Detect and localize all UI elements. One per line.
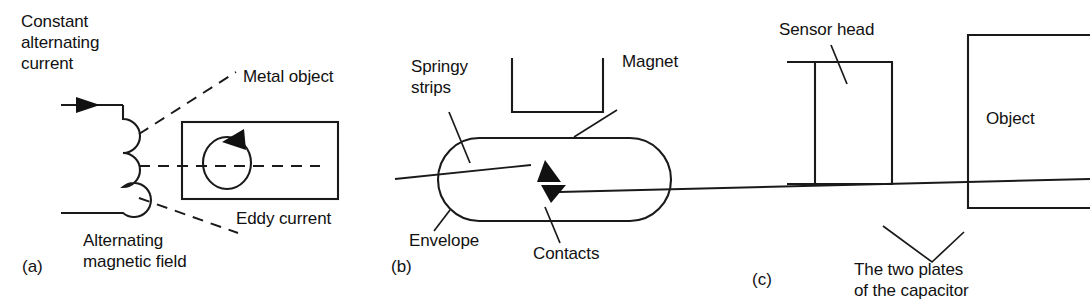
label-eddy-current: Eddy current — [236, 208, 331, 229]
contacts-leader — [545, 207, 560, 243]
label-metal-object: Metal object — [243, 66, 333, 87]
magnet-leader — [574, 110, 617, 137]
coil — [61, 105, 151, 217]
eddy-current-arrow-icon — [222, 129, 246, 150]
panel-id-b: (b) — [391, 257, 412, 277]
panel-c-graphics — [787, 35, 1090, 262]
label-constant-alternating-current-line1: Constant — [21, 11, 88, 32]
sensor-diagram-figure: Constant alternating current Metal objec… — [0, 0, 1090, 307]
panel-id-c: (c) — [752, 270, 772, 290]
label-alternating-magnetic-field-line1: Alternating — [83, 230, 163, 251]
envelope-leader — [434, 210, 450, 231]
panel-b-graphics — [395, 58, 1090, 221]
label-sensor-head: Sensor head — [779, 19, 874, 40]
field-line-upper — [139, 72, 236, 134]
panel-id-a: (a) — [22, 257, 43, 277]
label-object: Object — [986, 108, 1035, 129]
label-alternating-magnetic-field-line2: magnetic field — [83, 251, 187, 272]
label-constant-alternating-current-line2: alternating — [21, 32, 99, 53]
label-envelope: Envelope — [409, 230, 479, 251]
label-constant-alternating-current-line3: current — [21, 53, 73, 74]
label-capacitor-plates-line1: The two plates — [854, 259, 963, 280]
sensor-head-rectangle — [787, 62, 892, 184]
springy-strips-leader — [449, 112, 470, 163]
field-line-lower — [139, 198, 238, 233]
label-springy-strips-line1: Springy — [411, 56, 468, 77]
leader-lines — [434, 45, 847, 243]
springy-strip-lower — [559, 179, 1090, 192]
label-magnet: Magnet — [622, 51, 678, 72]
springy-strip-upper — [395, 165, 531, 179]
sensor-head-leader — [831, 45, 847, 84]
magnet-u-shape — [512, 58, 603, 112]
current-arrow-icon — [76, 97, 100, 113]
label-capacitor-plates-line2: of the capacitor — [854, 280, 969, 301]
capacitor-plates-leader — [883, 226, 964, 262]
label-springy-strips-line2: strips — [411, 77, 451, 98]
contact-lower — [541, 185, 566, 203]
label-contacts: Contacts — [533, 243, 599, 264]
metal-object-rectangle — [182, 122, 338, 199]
contact-upper — [537, 160, 561, 182]
